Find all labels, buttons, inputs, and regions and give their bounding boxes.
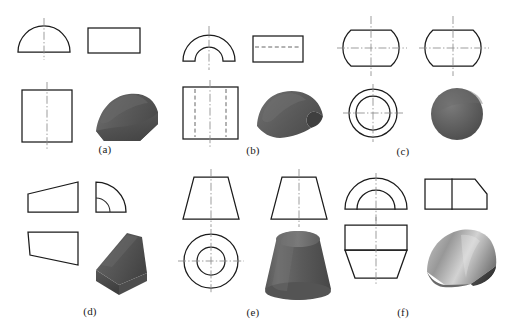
panel-e-pictorial-view <box>265 231 331 300</box>
panel-e-top-view <box>178 229 244 293</box>
panel-f-drawing <box>335 165 508 328</box>
panel-d-top-view <box>28 232 78 265</box>
panel-b-top-view <box>183 80 238 147</box>
panel-c-pictorial-view <box>431 88 483 140</box>
panel-f-pictorial-view <box>427 230 496 288</box>
panel-e-caption: (e) <box>233 306 273 318</box>
panel-a-top-view <box>22 82 72 150</box>
panel-d-caption: (d) <box>70 305 110 317</box>
panel-a-drawing <box>0 0 170 165</box>
panel-d-front-view <box>28 182 78 212</box>
panel-c-side-view <box>419 16 489 76</box>
panel-b-side-view <box>253 36 303 62</box>
panel-b-caption: (b) <box>233 144 273 156</box>
panel-a-pictorial-view <box>96 94 158 141</box>
panel-e-side-view <box>271 169 327 227</box>
panel-f-side-view <box>425 179 487 209</box>
panel-e-drawing <box>165 165 340 328</box>
panel-d: (d) <box>0 165 170 328</box>
panel-c-front-view <box>337 16 407 76</box>
panel-a-caption: (a) <box>85 143 125 155</box>
panel-d-side-view <box>96 182 126 212</box>
panel-f-top-view <box>345 217 407 286</box>
panel-b-pictorial-view <box>257 91 323 138</box>
panel-f-front-view <box>345 173 407 221</box>
technical-drawing-figure: (a) <box>0 0 508 328</box>
panel-b: (b) <box>165 0 340 165</box>
panel-c-caption: (c) <box>383 145 423 157</box>
panel-c: (c) <box>335 0 508 165</box>
panel-c-top-view <box>343 84 403 142</box>
panel-d-drawing <box>0 165 170 328</box>
panel-b-front-view <box>183 26 235 70</box>
panel-e: (e) <box>165 165 340 328</box>
panel-f-caption: (f) <box>383 306 423 318</box>
panel-d-pictorial-view <box>96 233 147 295</box>
panel-c-drawing <box>335 0 508 165</box>
panel-a-front-view <box>18 18 70 60</box>
panel-a: (a) <box>0 0 170 165</box>
panel-e-front-view <box>183 169 239 227</box>
panel-a-side-view <box>88 28 140 53</box>
panel-b-drawing <box>165 0 340 165</box>
panel-f: (f) <box>335 165 508 328</box>
